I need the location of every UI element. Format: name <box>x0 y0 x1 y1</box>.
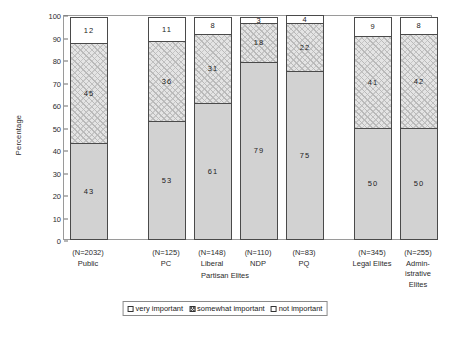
bar-segment[interactable]: 8 <box>400 17 438 35</box>
legend-label: not important <box>279 304 323 313</box>
bar-segment[interactable]: 12 <box>70 17 108 44</box>
bar-column[interactable]: 50419 <box>354 14 392 239</box>
y-axis-tick-mark <box>64 241 68 242</box>
y-axis-tick-label: 30 <box>53 169 61 178</box>
category-name: Public <box>58 259 118 270</box>
bar-value-label: 50 <box>368 180 378 188</box>
bar-value-label: 12 <box>84 27 94 35</box>
bar-value-label: 11 <box>162 26 172 34</box>
bar-segment[interactable]: 45 <box>70 43 108 144</box>
bar-value-label: 45 <box>84 90 94 98</box>
bar-column[interactable]: 533611 <box>148 14 186 239</box>
x-axis-title: Partisan Elites <box>0 271 450 280</box>
bar-value-label: 75 <box>300 152 310 160</box>
legend-item[interactable]: not important <box>271 304 323 313</box>
bar-segment[interactable]: 75 <box>286 71 324 240</box>
legend-swatch-icon <box>271 306 277 312</box>
plot-area: 0102030405060708090100 43451253361161318… <box>63 15 432 240</box>
x-axis-category-label: (N=2032)Public <box>58 248 118 269</box>
chart-legend: very importantsomewhat importantnot impo… <box>123 301 328 316</box>
bar-value-label: 42 <box>414 78 424 86</box>
legend-item[interactable]: very important <box>128 304 184 313</box>
category-sample-size: (N=83) <box>274 248 334 259</box>
bar-segment[interactable]: 41 <box>354 36 392 128</box>
y-axis-title-text: Percentage <box>14 90 23 180</box>
bar-segment[interactable]: 4 <box>286 15 324 24</box>
bar-segment[interactable]: 3 <box>240 17 278 24</box>
bar-segment[interactable]: 79 <box>240 62 278 240</box>
bar-segment[interactable]: 53 <box>148 121 186 240</box>
bar-column[interactable]: 75224 <box>286 14 324 239</box>
bar-segment[interactable]: 42 <box>400 34 438 129</box>
bar-segment[interactable]: 50 <box>400 128 438 241</box>
bar-segment[interactable]: 9 <box>354 17 392 37</box>
legend-label: somewhat important <box>197 304 265 313</box>
y-axis-tick-label: 10 <box>53 214 61 223</box>
bar-column[interactable]: 79183 <box>240 14 278 239</box>
bar-segment[interactable]: 31 <box>194 34 232 104</box>
y-axis-tick-label: 100 <box>48 12 61 21</box>
bar-value-label: 8 <box>416 22 421 30</box>
bar-value-label: 8 <box>210 22 215 30</box>
bar-value-label: 61 <box>208 168 218 176</box>
bar-segment[interactable]: 22 <box>286 23 324 73</box>
bar-value-label: 4 <box>302 16 307 24</box>
bar-value-label: 53 <box>162 177 172 185</box>
bar-value-label: 43 <box>84 188 94 196</box>
y-axis-tick-label: 60 <box>53 102 61 111</box>
y-axis-title: Percentage <box>14 0 26 90</box>
bar-value-label: 31 <box>208 65 218 73</box>
bar-value-label: 41 <box>368 79 378 87</box>
bar-segment[interactable]: 61 <box>194 103 232 240</box>
bar-column[interactable]: 50428 <box>400 14 438 239</box>
stacked-bar-chart: Percentage 0102030405060708090100 434512… <box>0 0 450 340</box>
y-axis-tick-label: 20 <box>53 192 61 201</box>
bar-value-label: 36 <box>162 78 172 86</box>
category-sample-size: (N=255) <box>388 248 448 259</box>
legend-swatch-icon <box>189 306 195 312</box>
y-axis-tick-label: 40 <box>53 147 61 156</box>
bar-group: 4345125336116131879183752245041950428 <box>64 16 431 239</box>
y-axis-tick-label: 90 <box>53 34 61 43</box>
bar-segment[interactable]: 50 <box>354 128 392 241</box>
legend-item[interactable]: somewhat important <box>189 304 265 313</box>
y-axis-tick-label: 0 <box>57 237 61 246</box>
bar-value-label: 22 <box>300 44 310 52</box>
legend-label: very important <box>136 304 184 313</box>
bar-segment[interactable]: 36 <box>148 41 186 122</box>
bar-segment[interactable]: 43 <box>70 143 108 240</box>
category-name: PQ <box>274 259 334 270</box>
y-axis-tick-label: 80 <box>53 57 61 66</box>
bar-segment[interactable]: 18 <box>240 23 278 64</box>
bar-value-label: 50 <box>414 180 424 188</box>
bar-column[interactable]: 61318 <box>194 14 232 239</box>
bar-value-label: 79 <box>254 147 264 155</box>
bar-column[interactable]: 434512 <box>70 14 108 239</box>
category-sample-size: (N=2032) <box>58 248 118 259</box>
x-axis-category-label: (N=83)PQ <box>274 248 334 269</box>
bar-segment[interactable]: 11 <box>148 17 186 42</box>
x-axis-category-label: (N=255)Admin- istrative Elites <box>388 248 448 290</box>
legend-swatch-icon <box>128 306 134 312</box>
y-axis-tick-label: 70 <box>53 79 61 88</box>
bar-value-label: 18 <box>254 39 264 47</box>
bar-value-label: 3 <box>256 17 261 24</box>
bar-segment[interactable]: 8 <box>194 17 232 35</box>
y-axis-tick-label: 50 <box>53 124 61 133</box>
bar-value-label: 9 <box>370 23 375 31</box>
